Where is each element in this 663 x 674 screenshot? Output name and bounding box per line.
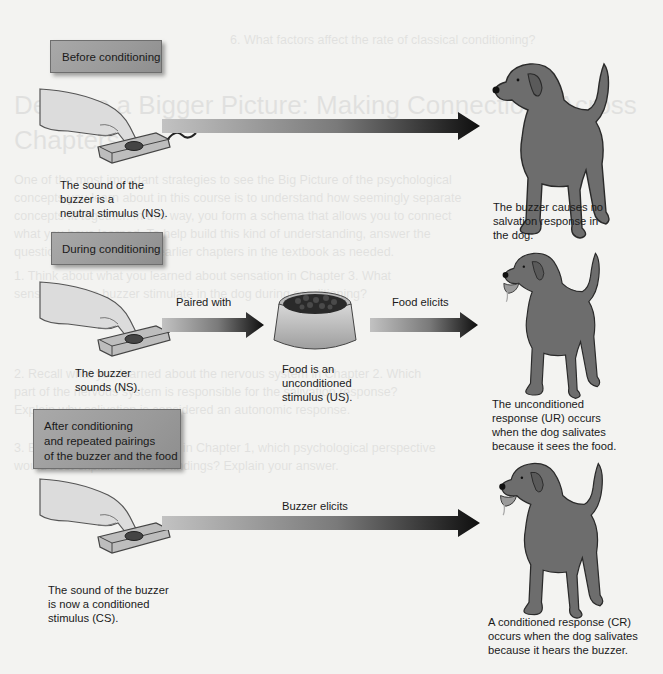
- arrow-right-icon: [162, 312, 264, 338]
- stage-label-box: Before conditioning: [50, 40, 162, 73]
- stimulus-caption: The sound of the buzzer is a neutral sti…: [60, 178, 168, 220]
- response-caption: A conditioned response (CR) occurs when …: [488, 615, 638, 657]
- stimulus-caption: The sound of the buzzer is now a conditi…: [48, 583, 169, 625]
- stimulus-caption: The buzzer sounds (NS).: [75, 366, 140, 394]
- stage-label: During conditioning: [62, 243, 160, 255]
- arrow-right-icon: [162, 509, 480, 537]
- food-bowl-icon: [272, 290, 358, 356]
- food-caption: Food is an unconditioned stimulus (US).: [282, 362, 352, 404]
- ghost-question: 6. What factors affect the rate of class…: [230, 32, 536, 49]
- stage-label-box: During conditioning: [51, 232, 163, 265]
- salivating-dog-icon: [488, 460, 618, 620]
- stage-label-box: After conditioning and repeated pairings…: [33, 409, 181, 469]
- arrow-right-icon: [162, 112, 480, 140]
- salivating-dog-icon: [488, 250, 618, 400]
- stage-label: Before conditioning: [62, 51, 160, 63]
- arrow-right-icon: [370, 312, 478, 338]
- arrow-label: Food elicits: [392, 296, 449, 308]
- arrow-label: Paired with: [176, 296, 231, 308]
- response-caption: The buzzer causes no salvation response …: [493, 200, 603, 242]
- response-caption: The unconditioned response (UR) occurs w…: [492, 397, 616, 453]
